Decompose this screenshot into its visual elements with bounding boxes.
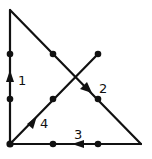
arrow-up-right-icon [27, 116, 37, 129]
dot [6, 140, 13, 147]
dot [7, 51, 14, 58]
line-1-label: 1 [18, 74, 26, 87]
dot [50, 51, 57, 58]
dot [95, 96, 102, 103]
dot [50, 141, 57, 148]
dot [7, 96, 14, 103]
line-2-label: 2 [99, 82, 107, 95]
arrow-up-icon [6, 70, 14, 82]
dot [95, 51, 102, 58]
line-4-label: 4 [40, 117, 48, 130]
line-3-label: 3 [74, 128, 82, 141]
dot [50, 96, 57, 103]
dot [95, 141, 102, 148]
